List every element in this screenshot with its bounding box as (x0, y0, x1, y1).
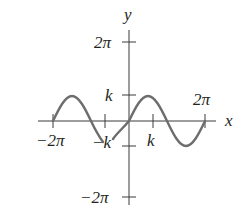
x-tick-label-neg-2pi: −2π (36, 131, 65, 150)
x-tick-label-k: k (147, 131, 155, 150)
y-tick-label-2pi: 2π (94, 33, 112, 52)
x-axis-label: x (224, 111, 233, 130)
x-tick-label-2pi: 2π (193, 90, 211, 109)
x-tick-label-neg-k: −k (92, 133, 111, 152)
y-tick-label-neg-2pi: −2π (80, 188, 109, 207)
y-axis-label: y (122, 5, 132, 24)
sine-plot: y x 2π k −2π −2π −k k 2π (0, 0, 242, 212)
y-tick-label-k: k (105, 86, 113, 105)
